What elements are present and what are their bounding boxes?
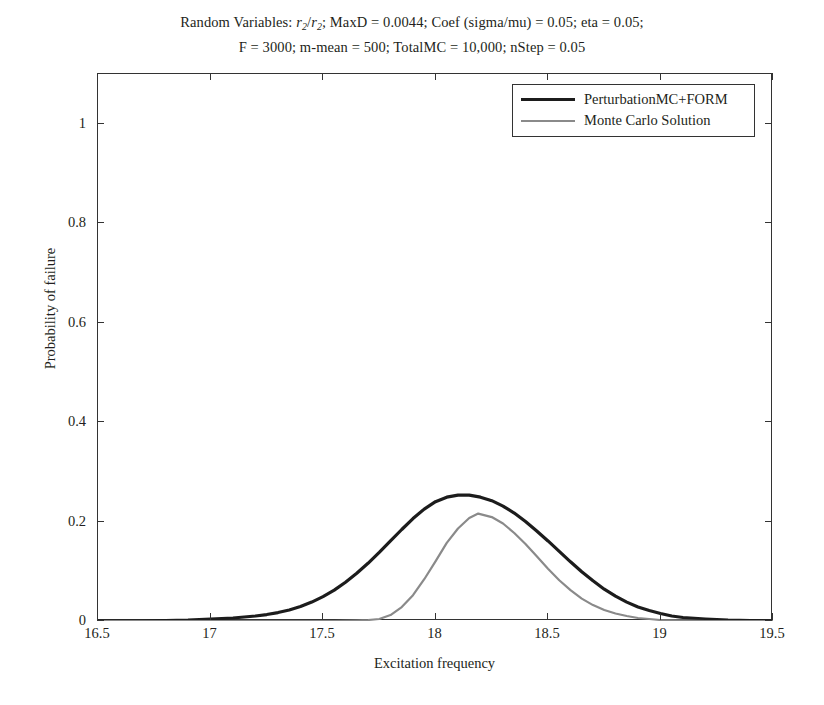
chart-title-line-1: Random Variables: r2/r2; MaxD = 0.0044; … [0, 12, 824, 37]
x-tick-label: 16.5 [84, 625, 109, 642]
x-tick-mark [660, 613, 661, 620]
x-tick-mark [660, 73, 661, 80]
legend-item-perturbationmc-form: PerturbationMC+FORM [521, 89, 746, 110]
x-tick-mark [210, 613, 211, 620]
x-tick-mark [322, 73, 323, 80]
legend-line-swatch-series-1 [521, 120, 575, 122]
title-suffix: ; MaxD = 0.0044; Coef (sigma/mu) = 0.05;… [322, 14, 644, 30]
x-tick-label: 18.5 [534, 625, 559, 642]
x-tick-label: 19.5 [759, 625, 784, 642]
y-tick-mark [97, 620, 104, 621]
y-tick-label: 0.6 [68, 313, 86, 330]
y-tick-mark [765, 123, 772, 124]
legend-line-swatch-series-0 [521, 98, 575, 101]
x-tick-label: 19 [652, 625, 667, 642]
x-tick-mark [322, 613, 323, 620]
chart-title-line-2: F = 3000; m-mean = 500; TotalMC = 10,000… [0, 37, 824, 58]
y-tick-mark [765, 620, 772, 621]
y-tick-label: 0.4 [68, 413, 86, 430]
x-tick-label: 18 [427, 625, 442, 642]
legend-item-monte-carlo-solution: Monte Carlo Solution [521, 110, 746, 131]
x-tick-mark [97, 73, 98, 80]
y-tick-mark [765, 322, 772, 323]
y-tick-label: 1 [79, 114, 86, 131]
x-tick-mark [97, 613, 98, 620]
plot-svg [98, 74, 773, 621]
x-axis-title: Excitation frequency [97, 655, 772, 672]
series-line-0 [98, 495, 773, 621]
y-tick-mark [765, 421, 772, 422]
x-tick-mark [210, 73, 211, 80]
y-tick-mark [97, 322, 104, 323]
y-axis-title: Probability of failure [42, 199, 59, 419]
x-tick-mark [772, 73, 773, 80]
y-tick-mark [765, 222, 772, 223]
x-tick-mark [435, 613, 436, 620]
legend-label-series-0: PerturbationMC+FORM [584, 91, 728, 108]
figure-container: Random Variables: r2/r2; MaxD = 0.0044; … [0, 0, 824, 705]
x-tick-label: 17 [202, 625, 217, 642]
x-tick-mark [547, 73, 548, 80]
y-tick-label: 0.2 [68, 512, 86, 529]
x-tick-mark [547, 613, 548, 620]
plot-area [97, 73, 772, 620]
y-tick-mark [97, 222, 104, 223]
legend-label-series-1: Monte Carlo Solution [584, 112, 710, 129]
x-tick-mark [772, 613, 773, 620]
y-tick-mark [97, 521, 104, 522]
x-tick-label: 17.5 [309, 625, 334, 642]
x-tick-mark [435, 73, 436, 80]
chart-title: Random Variables: r2/r2; MaxD = 0.0044; … [0, 12, 824, 58]
y-tick-mark [97, 123, 104, 124]
series-line-1 [98, 514, 773, 621]
title-prefix: Random Variables: [180, 14, 296, 30]
y-tick-mark [765, 521, 772, 522]
y-tick-label: 0 [79, 612, 86, 629]
y-tick-mark [97, 421, 104, 422]
y-tick-label: 0.8 [68, 214, 86, 231]
legend-box: PerturbationMC+FORM Monte Carlo Solution [512, 84, 755, 137]
